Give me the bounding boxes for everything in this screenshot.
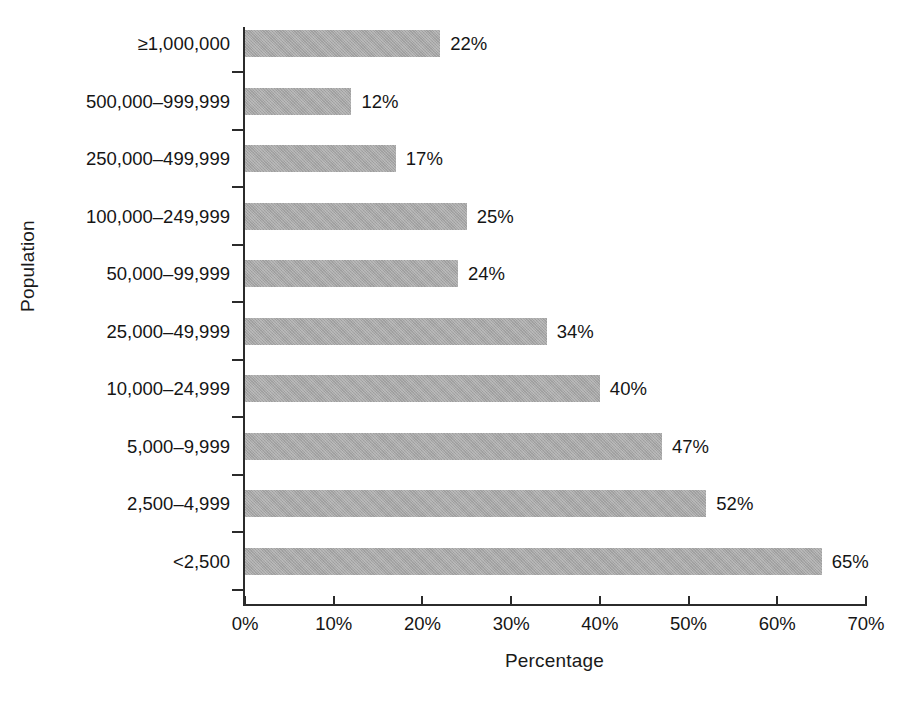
bar-value-label: 52% <box>716 493 753 515</box>
bar-value-label: 22% <box>450 33 487 55</box>
bar-value-label: 47% <box>672 436 709 458</box>
y-axis-tick <box>232 186 243 188</box>
x-axis-tick <box>421 596 423 606</box>
bar-row: ≥1,000,00022% <box>0 30 660 85</box>
category-label: 500,000–999,999 <box>60 91 230 113</box>
y-axis-tick <box>232 129 243 131</box>
category-label: 10,000–24,999 <box>60 378 230 400</box>
x-axis-tick <box>510 596 512 606</box>
y-axis-tick <box>232 531 243 533</box>
bar-value-label: 34% <box>557 321 594 343</box>
bar <box>245 88 351 115</box>
bar <box>245 433 662 460</box>
x-axis-tick <box>688 596 690 606</box>
x-axis-title: Percentage <box>243 650 866 672</box>
x-axis-tick-label: 0% <box>210 613 280 635</box>
bar-chart: Population ≥1,000,00022%500,000–999,9991… <box>0 0 903 705</box>
bar <box>245 203 467 230</box>
x-axis-tick-label: 50% <box>654 613 724 635</box>
y-axis-tick <box>232 416 243 418</box>
bar-value-label: 25% <box>477 206 514 228</box>
bar-row: 50,000–99,99924% <box>0 260 660 315</box>
bar-row: 500,000–999,99912% <box>0 88 660 143</box>
bar-value-label: 65% <box>832 551 869 573</box>
bar-row: 25,000–49,99934% <box>0 318 660 373</box>
x-axis-tick-label: 30% <box>476 613 546 635</box>
x-axis-tick-label: 70% <box>831 613 901 635</box>
category-label: ≥1,000,000 <box>60 33 230 55</box>
category-label: 50,000–99,999 <box>60 263 230 285</box>
bar-value-label: 17% <box>406 148 443 170</box>
x-axis-tick <box>865 596 867 606</box>
x-axis-line <box>243 604 866 606</box>
bar-row: 100,000–249,99925% <box>0 203 660 258</box>
bar <box>245 260 458 287</box>
bar-value-label: 12% <box>361 91 398 113</box>
x-axis-tick <box>333 596 335 606</box>
bar-row: 5,000–9,99947% <box>0 433 660 488</box>
y-axis-tick <box>232 589 243 591</box>
x-axis-tick <box>776 596 778 606</box>
x-axis-tick-label: 60% <box>742 613 812 635</box>
x-axis-tick-label: 40% <box>565 613 635 635</box>
bar <box>245 30 440 57</box>
category-label: 250,000–499,999 <box>60 148 230 170</box>
category-label: 2,500–4,999 <box>60 493 230 515</box>
y-axis-tick <box>232 359 243 361</box>
y-axis-tick <box>232 474 243 476</box>
bar-row: 2,500–4,99952% <box>0 490 660 545</box>
bar <box>245 318 547 345</box>
bar-value-label: 24% <box>468 263 505 285</box>
bar <box>245 548 822 575</box>
bar-value-label: 40% <box>610 378 647 400</box>
x-axis-tick-label: 10% <box>299 613 369 635</box>
bar <box>245 145 396 172</box>
bar-row: <2,50065% <box>0 548 660 603</box>
bar <box>245 490 706 517</box>
bar-row: 250,000–499,99917% <box>0 145 660 200</box>
category-label: 25,000–49,999 <box>60 321 230 343</box>
x-axis-tick <box>244 596 246 606</box>
bar <box>245 375 600 402</box>
category-label: 100,000–249,999 <box>60 206 230 228</box>
category-label: 5,000–9,999 <box>60 436 230 458</box>
y-axis-tick <box>232 244 243 246</box>
x-axis-tick-label: 20% <box>387 613 457 635</box>
y-axis-tick <box>232 301 243 303</box>
x-axis-tick <box>599 596 601 606</box>
y-axis-tick <box>232 71 243 73</box>
category-label: <2,500 <box>60 551 230 573</box>
bar-row: 10,000–24,99940% <box>0 375 660 430</box>
